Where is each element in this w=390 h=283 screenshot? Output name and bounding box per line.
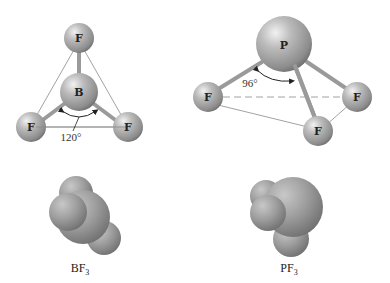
bf3-label-b: B: [74, 86, 83, 99]
bf3-space-filling-model: [49, 176, 121, 255]
bf3-label-f-left: F: [27, 121, 35, 134]
bf3-bond-angle-label: 120°: [61, 131, 82, 143]
bf3-angle-arc: [62, 111, 96, 117]
pf3-space-filling-model: [250, 177, 323, 257]
pf3-label-p: P: [280, 39, 288, 52]
pf3-formula-label: PF3: [280, 261, 297, 277]
pf3-ball-and-stick-model: P F F F 96°: [193, 16, 372, 146]
bf3-label-f-right: F: [124, 121, 132, 134]
pf3-label-f-right: F: [353, 91, 361, 104]
pf3-label-f-bottom: F: [314, 125, 322, 138]
bf3-formula-label: BF3: [71, 261, 90, 277]
bf3-label-f-top: F: [75, 32, 83, 45]
bf3-ball-and-stick-model: F B F F 120°: [16, 23, 143, 143]
molecular-geometry-figure: F B F F 120° P F F F 96°: [0, 0, 390, 283]
pf3-bond-angle-label: 96°: [242, 77, 257, 89]
pf3-label-f-left: F: [204, 91, 212, 104]
